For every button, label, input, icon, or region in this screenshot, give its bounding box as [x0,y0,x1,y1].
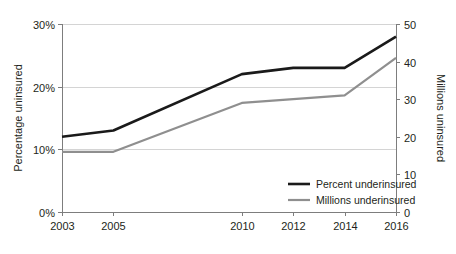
y2-tick-label: 30 [404,94,416,106]
y2-axis-title: Millions uninsured [435,74,447,162]
y2-tick-label: 40 [404,57,416,69]
x-tick-label: 2012 [281,220,305,232]
y-axis-ticks: 0%10%20%30% [33,19,62,219]
series-line-1 [62,37,396,137]
x-tick-label: 2014 [333,220,357,232]
x-tick-label: 2016 [384,220,408,232]
series-line-2 [62,58,396,152]
y-tick-label: 0% [39,207,55,219]
y-tick-label: 20% [33,82,55,94]
y-tick-label: 10% [33,144,55,156]
y-tick-label: 30% [33,19,55,31]
chart-container: 0%10%20%30% 01020304050 2003200520102012… [0,0,456,254]
chart-legend: Percent underinsuredMillions underinsure… [288,178,417,206]
x-tick-label: 2010 [230,220,254,232]
y-axis-title: Percentage uninsured [12,64,24,172]
y2-tick-label: 50 [404,19,416,31]
legend-label-1: Percent underinsured [316,178,417,190]
x-tick-label: 2003 [50,220,74,232]
y2-tick-label: 0 [404,207,410,219]
x-axis-ticks: 200320052010201220142016 [50,212,408,232]
y2-tick-label: 20 [404,132,416,144]
data-series-group [62,37,396,152]
x-tick-label: 2005 [101,220,125,232]
line-chart: 0%10%20%30% 01020304050 2003200520102012… [0,0,456,254]
legend-label-2: Millions underinsured [316,194,415,206]
